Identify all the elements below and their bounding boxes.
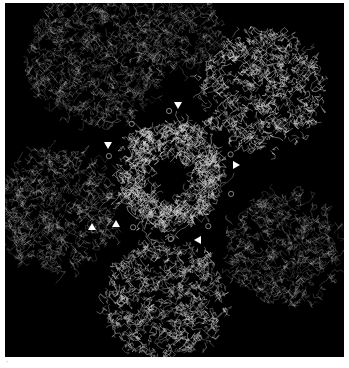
arrowhead-marker-icon: [194, 236, 201, 244]
arrowhead-marker-icon: [104, 142, 112, 149]
protein-structure-render: [5, 3, 344, 357]
arrowhead-marker-icon: [112, 220, 120, 227]
panel-label: ·: [6, 358, 9, 367]
central-ring-core: [106, 108, 234, 241]
arrowhead-marker-icon: [233, 161, 240, 169]
structure-figure-panel: [5, 3, 344, 357]
arrowhead-marker-icon: [174, 102, 182, 109]
